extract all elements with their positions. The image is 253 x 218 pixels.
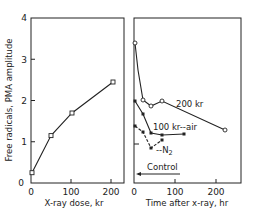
left-series-dose-response (30, 80, 115, 175)
label-control: Control (147, 162, 178, 172)
right-x-tick-0: 0 (131, 187, 137, 197)
y-tick-1: 1 (21, 137, 27, 147)
left-x-ticks (71, 179, 111, 183)
y-tick-0: 0 (18, 178, 24, 188)
left-x-tick-100: 100 (62, 187, 79, 197)
right-x-tick-200: 200 (207, 187, 224, 197)
left-y-tick-labels: 0 1 2 3 4 (18, 13, 27, 188)
label-n2: --N2 (156, 145, 173, 157)
left-x-tick-0: 0 (28, 187, 34, 197)
left-x-tick-200: 200 (102, 187, 119, 197)
y-axis-label: Free radicals, PMA amplitude (4, 38, 14, 161)
label-200kr: 200 kr (176, 99, 204, 109)
y-tick-3: 3 (21, 55, 27, 65)
left-x-axis-label: X-ray dose, kr (45, 198, 104, 208)
figure: 0 1 2 3 4 Free radicals, PMA amplitude 0… (0, 0, 253, 218)
series-200kr (133, 41, 227, 132)
arrow-left-icon (136, 172, 141, 176)
control-annotation: Control (136, 162, 180, 176)
right-x-axis-label: Time after x-ray, hr (145, 198, 229, 208)
right-x-ticks (175, 179, 216, 183)
left-plot-frame (31, 18, 124, 183)
right-x-tick-100: 100 (166, 187, 183, 197)
y-tick-4: 4 (21, 13, 27, 23)
y-tick-2: 2 (21, 96, 27, 106)
label-100kr-air: 100 kr--air (153, 122, 198, 132)
left-y-ticks (31, 59, 35, 142)
